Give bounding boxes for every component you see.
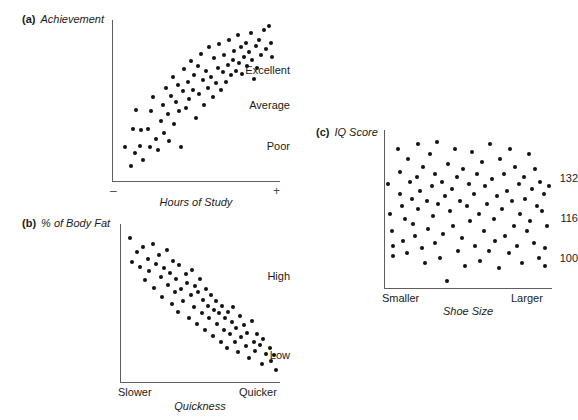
data-point — [500, 207, 504, 211]
data-point — [252, 340, 256, 344]
panel-c: (c)IQ Score 132 116 100 Smaller Larger S… — [300, 110, 578, 320]
data-point — [161, 103, 165, 107]
panel-c-label: (c)IQ Score — [316, 127, 378, 138]
data-point — [230, 320, 234, 324]
scatterplot-figure: (a)Achievement Excellent Average Poor – … — [0, 0, 578, 420]
data-point — [187, 316, 191, 320]
panel-c-title: IQ Score — [334, 126, 377, 138]
data-point — [184, 272, 188, 276]
data-point — [492, 217, 496, 221]
data-point — [396, 147, 400, 151]
data-point — [547, 184, 551, 188]
data-point — [270, 55, 274, 59]
data-point — [485, 202, 489, 206]
data-point — [247, 50, 251, 54]
data-point — [403, 217, 407, 221]
data-point — [245, 331, 249, 335]
data-point — [258, 343, 262, 347]
data-point — [254, 44, 258, 48]
data-point — [538, 180, 542, 184]
data-point — [229, 73, 233, 77]
data-point — [227, 38, 231, 42]
data-point — [216, 66, 220, 70]
data-point — [483, 184, 487, 188]
data-point — [177, 109, 181, 113]
data-point — [242, 55, 246, 59]
data-point — [149, 109, 153, 113]
data-point — [503, 234, 507, 238]
data-point — [130, 260, 134, 264]
data-point — [245, 64, 249, 68]
data-point — [179, 287, 183, 291]
data-point — [517, 182, 521, 186]
data-point — [199, 52, 203, 56]
data-point — [203, 328, 207, 332]
data-point — [420, 246, 424, 250]
data-point — [267, 24, 271, 28]
data-point — [201, 298, 205, 302]
data-point — [192, 305, 196, 309]
data-point — [219, 88, 223, 92]
data-point — [193, 284, 197, 288]
data-point — [168, 271, 172, 275]
data-point — [264, 47, 268, 51]
data-point — [209, 75, 213, 79]
data-point — [206, 304, 210, 308]
data-point — [540, 209, 544, 213]
data-point — [234, 69, 238, 73]
data-point — [542, 192, 546, 196]
data-point — [131, 127, 135, 131]
data-point — [253, 349, 257, 353]
data-point — [166, 112, 170, 116]
data-point — [171, 259, 175, 263]
data-point — [391, 254, 395, 258]
data-point — [272, 353, 276, 357]
data-point — [465, 204, 469, 208]
data-point — [222, 53, 226, 57]
data-point — [128, 236, 132, 240]
data-point — [448, 209, 452, 213]
data-point — [423, 261, 427, 265]
data-point — [148, 145, 152, 149]
data-point — [217, 42, 221, 46]
data-point — [228, 332, 232, 336]
data-point — [512, 224, 516, 228]
data-point — [237, 61, 241, 65]
data-point — [468, 219, 472, 223]
data-point — [134, 108, 138, 112]
data-point — [269, 41, 273, 45]
data-point — [470, 150, 474, 154]
data-point — [225, 346, 229, 350]
data-point — [261, 337, 265, 341]
data-point — [473, 244, 477, 248]
data-point — [214, 299, 218, 303]
panel-c-x-axis — [384, 288, 552, 289]
data-point — [244, 41, 248, 45]
panel-a-title: Achievement — [40, 13, 104, 25]
data-point — [390, 229, 394, 233]
data-point — [488, 142, 492, 146]
data-point — [162, 266, 166, 270]
data-point — [159, 275, 163, 279]
data-point — [487, 249, 491, 253]
data-point — [242, 323, 246, 327]
data-point — [537, 256, 541, 260]
data-point — [543, 246, 547, 250]
data-point — [206, 86, 210, 90]
data-point — [239, 45, 243, 49]
data-point — [212, 308, 216, 312]
panel-a-label: (a)Achievement — [22, 14, 104, 25]
data-point — [147, 269, 151, 273]
data-point — [490, 177, 494, 181]
data-point — [505, 189, 509, 193]
panel-a: (a)Achievement Excellent Average Poor – … — [0, 0, 290, 210]
panel-b-plot-area — [121, 229, 279, 379]
data-point — [189, 59, 193, 63]
data-point — [455, 175, 459, 179]
data-point — [222, 328, 226, 332]
data-point — [425, 199, 429, 203]
panel-a-tag: (a) — [22, 13, 35, 25]
data-point — [187, 97, 191, 101]
data-point — [255, 332, 259, 336]
data-point — [234, 326, 238, 330]
